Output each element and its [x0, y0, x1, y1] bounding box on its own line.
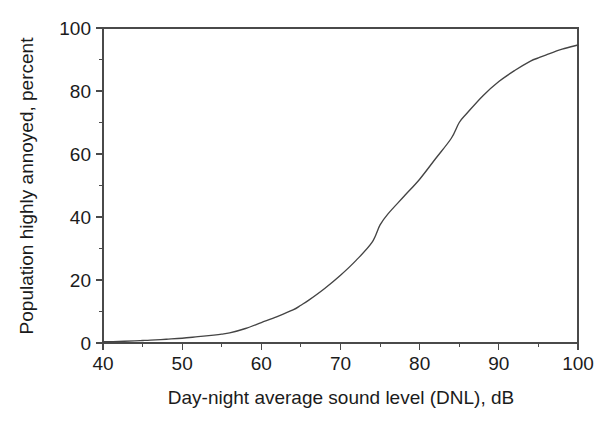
data-series-curve — [103, 45, 578, 342]
y-tick-label: 80 — [70, 81, 91, 102]
x-tick-label: 70 — [330, 353, 351, 374]
annoyance-curve — [103, 45, 578, 342]
x-tick-label: 40 — [92, 353, 113, 374]
x-tick-label: 50 — [172, 353, 193, 374]
x-tick-label: 60 — [251, 353, 272, 374]
x-tick-label: 80 — [409, 353, 430, 374]
x-axis-title: Day-night average sound level (DNL), dB — [168, 387, 514, 408]
chart-canvas: 405060708090100020406080100 Day-night av… — [0, 0, 615, 425]
chart-figure: 405060708090100020406080100 Day-night av… — [0, 0, 615, 425]
x-tick-label: 100 — [562, 353, 594, 374]
y-axis-title: Population highly annoyed, percent — [16, 37, 37, 335]
y-tick-label: 60 — [70, 144, 91, 165]
x-tick-label: 90 — [488, 353, 509, 374]
y-tick-label: 20 — [70, 270, 91, 291]
y-tick-label: 0 — [80, 333, 91, 354]
y-tick-label: 40 — [70, 207, 91, 228]
y-tick-label: 100 — [59, 18, 91, 39]
